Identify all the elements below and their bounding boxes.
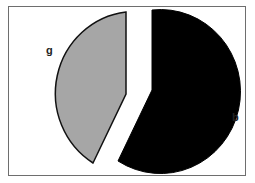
label-g: g	[46, 44, 53, 56]
pie-chart	[0, 0, 255, 183]
slice-b	[118, 10, 241, 174]
slice-g	[55, 12, 126, 163]
label-b: b	[232, 111, 239, 123]
